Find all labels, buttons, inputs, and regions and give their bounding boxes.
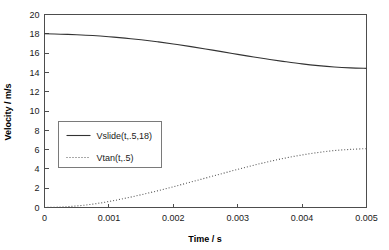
y-tick-label: 10 [29, 106, 39, 116]
y-tick-label: 6 [34, 145, 39, 155]
x-tick-label: 0.004 [291, 213, 314, 223]
x-axis-title: Time / s [188, 234, 221, 244]
x-tick-label: 0.003 [226, 213, 249, 223]
x-tick-label: 0.002 [162, 213, 185, 223]
y-tick-label: 2 [34, 183, 39, 193]
y-axis-title: Velocity / m/s [3, 83, 13, 140]
legend-label: Vtan(t,.5) [97, 153, 134, 163]
chart-legend: Vslide(t,.5,18)Vtan(t,.5) [59, 122, 162, 168]
chart-canvas: 02468101214161820 00.0010.0020.0030.0040… [0, 0, 389, 250]
velocity-time-chart: 02468101214161820 00.0010.0020.0030.0040… [0, 0, 389, 250]
x-tick-label: 0.001 [98, 213, 121, 223]
y-tick-label: 14 [29, 68, 39, 78]
y-tick-label: 16 [29, 48, 39, 58]
y-tick-label: 18 [29, 29, 39, 39]
y-tick-label: 8 [34, 126, 39, 136]
legend-label: Vslide(t,.5,18) [97, 131, 153, 141]
x-tick-label: 0 [42, 213, 47, 223]
y-tick-label: 12 [29, 87, 39, 97]
x-tick-label: 0.005 [355, 213, 378, 223]
y-tick-label: 4 [34, 164, 39, 174]
y-tick-label: 0 [34, 203, 39, 213]
y-tick-label: 20 [29, 10, 39, 20]
